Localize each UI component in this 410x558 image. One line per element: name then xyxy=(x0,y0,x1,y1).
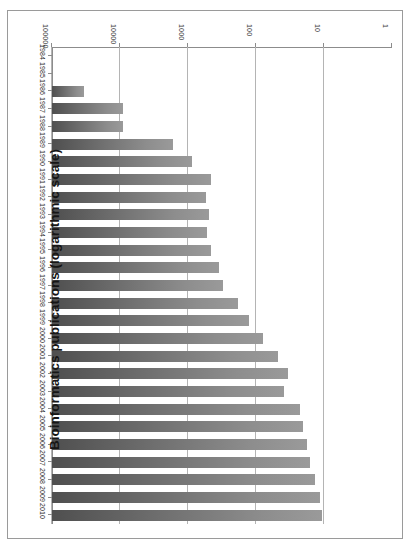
bar[interactable] xyxy=(52,139,173,150)
chart-frame: 110100100010000100000 198419851986198719… xyxy=(7,10,403,539)
value-tick-label: 10000 xyxy=(110,24,117,44)
bar-row[interactable]: 2004 xyxy=(52,404,392,415)
bar[interactable] xyxy=(52,404,300,415)
category-tick-mark xyxy=(48,55,52,56)
bar[interactable] xyxy=(52,457,310,468)
bar[interactable] xyxy=(52,421,303,432)
bar-row[interactable]: 1999 xyxy=(52,315,392,326)
value-tick-mark xyxy=(187,43,188,47)
figure-root: 110100100010000100000 198419851986198719… xyxy=(0,0,410,558)
bar[interactable] xyxy=(52,333,263,344)
bar-row[interactable]: 2001 xyxy=(52,351,392,362)
category-label: 1984 xyxy=(39,44,46,60)
bar-row[interactable]: 2003 xyxy=(52,386,392,397)
bar-row[interactable]: 2000 xyxy=(52,333,392,344)
bar-row[interactable]: 1996 xyxy=(52,262,392,273)
bar-row[interactable]: 1991 xyxy=(52,174,392,185)
bar[interactable] xyxy=(52,368,288,379)
bar[interactable] xyxy=(52,280,223,291)
bar-row[interactable]: 1995 xyxy=(52,245,392,256)
bar[interactable] xyxy=(52,192,206,203)
value-tick-mark xyxy=(323,43,324,47)
bar-row[interactable]: 1986 xyxy=(52,86,392,97)
bar-row[interactable]: 1993 xyxy=(52,209,392,220)
bar[interactable] xyxy=(52,262,219,273)
value-tick-label: 10 xyxy=(314,24,321,32)
bar-row[interactable]: 1989 xyxy=(52,139,392,150)
value-tick-label: 1000 xyxy=(178,24,185,40)
bar[interactable] xyxy=(52,474,315,485)
bar-row[interactable]: 1997 xyxy=(52,280,392,291)
bar-row[interactable]: 2002 xyxy=(52,368,392,379)
bar[interactable] xyxy=(52,174,211,185)
bar[interactable] xyxy=(52,298,238,309)
bar[interactable] xyxy=(52,156,192,167)
value-tick-mark xyxy=(119,43,120,47)
bar[interactable] xyxy=(52,492,320,503)
bar-row[interactable]: 1994 xyxy=(52,227,392,238)
bar-row[interactable]: 1998 xyxy=(52,298,392,309)
bar-row[interactable]: 2010 xyxy=(52,510,392,521)
bar[interactable] xyxy=(52,386,284,397)
value-tick-label: 1 xyxy=(382,24,389,28)
bar-row[interactable]: 2005 xyxy=(52,421,392,432)
bar-row[interactable]: 1988 xyxy=(52,121,392,132)
value-tick-mark xyxy=(51,43,52,47)
bar[interactable] xyxy=(52,315,249,326)
bar-row[interactable]: 2007 xyxy=(52,457,392,468)
bar-row[interactable]: 2006 xyxy=(52,439,392,450)
bar[interactable] xyxy=(52,227,207,238)
bar[interactable] xyxy=(52,439,307,450)
plot-area: 110100100010000100000 198419851986198719… xyxy=(52,47,392,524)
value-tick-label: 100 xyxy=(246,24,253,36)
bar[interactable] xyxy=(52,351,278,362)
bar-row[interactable]: 1984 xyxy=(52,50,392,61)
bar-row[interactable]: 1992 xyxy=(52,192,392,203)
chart-title: Bioinformatics publications (logarithmic… xyxy=(44,61,66,538)
bar[interactable] xyxy=(52,510,322,521)
bar[interactable] xyxy=(52,245,211,256)
bar-row[interactable]: 2008 xyxy=(52,474,392,485)
bar-row[interactable]: 1990 xyxy=(52,156,392,167)
bar-row[interactable]: 1985 xyxy=(52,68,392,79)
bar-row[interactable]: 1987 xyxy=(52,103,392,114)
value-tick-mark xyxy=(391,43,392,47)
bar[interactable] xyxy=(52,209,209,220)
bar-row[interactable]: 2009 xyxy=(52,492,392,503)
value-tick-mark xyxy=(255,43,256,47)
value-axis-line xyxy=(52,47,392,48)
